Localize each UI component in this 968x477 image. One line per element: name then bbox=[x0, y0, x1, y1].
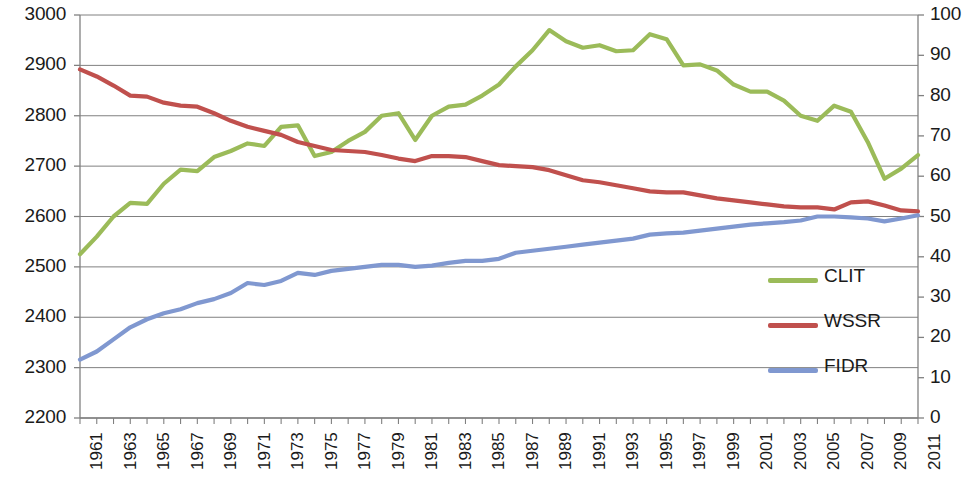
y-axis-left-tick-label: 2700 bbox=[0, 154, 66, 176]
y-axis-left-tick-label: 2300 bbox=[0, 356, 66, 378]
x-axis-tick-label: 1989 bbox=[556, 432, 576, 470]
chart-container: 220023002400250026002700280029003000 010… bbox=[0, 0, 968, 477]
y-axis-left-tick-label: 2200 bbox=[0, 406, 66, 428]
x-axis-tick-label: 1969 bbox=[221, 432, 241, 470]
x-axis-tick-label: 1995 bbox=[657, 432, 677, 470]
chart-plot-area bbox=[0, 0, 968, 477]
x-axis-tick-label: 1967 bbox=[188, 432, 208, 470]
legend-label-clit: CLIT bbox=[824, 265, 865, 287]
y-axis-left-tick-label: 2400 bbox=[0, 305, 66, 327]
x-axis-tick-label: 1963 bbox=[121, 432, 141, 470]
legend-swatch-clit bbox=[768, 278, 818, 283]
x-axis-tick-label: 1981 bbox=[422, 432, 442, 470]
legend-swatch-fidr bbox=[768, 368, 818, 373]
legend-swatch-wssr bbox=[768, 323, 818, 328]
y-axis-right-tick-label: 60 bbox=[930, 164, 951, 186]
x-axis-tick-label: 1971 bbox=[255, 432, 275, 470]
series-line-fidr bbox=[80, 215, 918, 359]
y-axis-right-tick-label: 80 bbox=[930, 84, 951, 106]
x-axis-tick-label: 2005 bbox=[824, 432, 844, 470]
x-axis-tick-label: 2003 bbox=[791, 432, 811, 470]
x-axis-tick-label: 1979 bbox=[389, 432, 409, 470]
x-axis-tick-label: 1973 bbox=[288, 432, 308, 470]
y-axis-right-tick-label: 50 bbox=[930, 205, 951, 227]
y-axis-right-tick-label: 90 bbox=[930, 43, 951, 65]
x-axis-tick-label: 1999 bbox=[724, 432, 744, 470]
x-axis-tick-label: 1961 bbox=[87, 432, 107, 470]
x-axis-tick-label: 2007 bbox=[858, 432, 878, 470]
y-axis-left-tick-label: 2600 bbox=[0, 205, 66, 227]
x-axis-tick-label: 2011 bbox=[925, 433, 945, 470]
series-line-wssr bbox=[80, 69, 918, 211]
y-axis-left-tick-label: 2800 bbox=[0, 104, 66, 126]
y-axis-left-tick-label: 2900 bbox=[0, 53, 66, 75]
y-axis-left-tick-label: 2500 bbox=[0, 255, 66, 277]
x-axis-tick-label: 2001 bbox=[757, 432, 777, 470]
x-axis-tick-label: 1997 bbox=[690, 432, 710, 470]
x-axis-tick-label: 1991 bbox=[590, 432, 610, 470]
x-axis-tick-label: 1985 bbox=[489, 432, 509, 470]
y-axis-right-tick-label: 40 bbox=[930, 245, 951, 267]
x-axis-tick-label: 2009 bbox=[891, 432, 911, 470]
y-axis-right-tick-label: 30 bbox=[930, 285, 951, 307]
legend-label-fidr: FIDR bbox=[824, 355, 868, 377]
y-axis-left-tick-label: 3000 bbox=[0, 3, 66, 25]
y-axis-right-tick-label: 100 bbox=[930, 3, 961, 25]
x-axis-tick-label: 1965 bbox=[154, 432, 174, 470]
y-axis-right-tick-label: 0 bbox=[930, 406, 940, 428]
x-axis-tick-label: 1983 bbox=[456, 432, 476, 470]
x-axis-tick-label: 1993 bbox=[623, 432, 643, 470]
y-axis-right-tick-label: 10 bbox=[930, 366, 951, 388]
y-axis-right-tick-label: 70 bbox=[930, 124, 951, 146]
x-axis-tick-label: 1987 bbox=[523, 432, 543, 470]
y-axis-right-tick-label: 20 bbox=[930, 325, 951, 347]
x-axis-tick-label: 1977 bbox=[355, 432, 375, 470]
x-axis-tick-label: 1975 bbox=[322, 432, 342, 470]
legend-label-wssr: WSSR bbox=[824, 310, 881, 332]
